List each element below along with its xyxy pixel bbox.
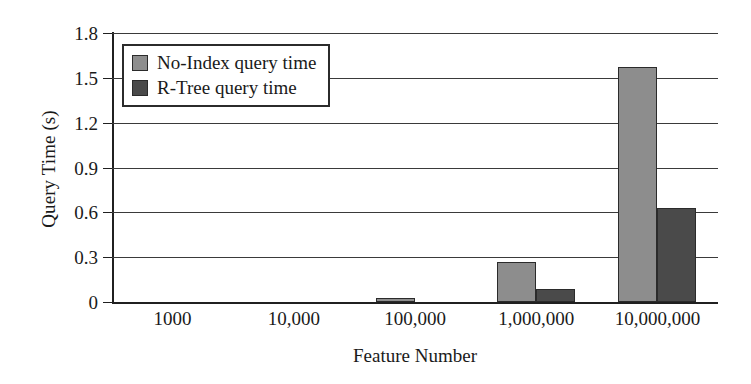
y-tick-label: 0.6 bbox=[28, 203, 98, 222]
legend-item[interactable]: R-Tree query time bbox=[132, 75, 316, 100]
x-axis-ticks: 100010,000100,0001,000,00010,000,000 bbox=[112, 308, 718, 336]
legend-label: R-Tree query time bbox=[157, 78, 297, 97]
y-tick-mark bbox=[103, 123, 112, 124]
y-tick-mark bbox=[103, 257, 112, 258]
x-tick-label: 1000 bbox=[154, 308, 192, 330]
legend-item[interactable]: No-Index query time bbox=[132, 50, 316, 75]
bar-group bbox=[354, 33, 475, 302]
y-tick-label: 1.5 bbox=[28, 69, 98, 88]
x-tick-label: 100,000 bbox=[384, 308, 446, 330]
y-tick-label: 1.8 bbox=[28, 24, 98, 43]
y-tick-label: 0.9 bbox=[28, 159, 98, 178]
y-tick-label: 0.3 bbox=[28, 248, 98, 267]
bar-group bbox=[597, 33, 718, 302]
y-tick-label: 1.2 bbox=[28, 114, 98, 133]
legend-swatch-icon bbox=[132, 55, 148, 71]
bar[interactable] bbox=[497, 262, 536, 302]
y-tick-mark bbox=[103, 33, 112, 34]
bar[interactable] bbox=[618, 67, 657, 302]
y-tick-label: 0 bbox=[28, 293, 98, 312]
bar[interactable] bbox=[376, 298, 415, 302]
y-tick-mark bbox=[103, 302, 112, 303]
y-tick-mark bbox=[103, 212, 112, 213]
y-tick-mark bbox=[103, 168, 112, 169]
legend-swatch-icon bbox=[132, 80, 148, 96]
gridline bbox=[112, 302, 718, 304]
chart-legend: No-Index query timeR-Tree query time bbox=[122, 44, 330, 107]
bar-group bbox=[476, 33, 597, 302]
x-tick-label: 10,000 bbox=[268, 308, 320, 330]
bar[interactable] bbox=[657, 208, 696, 302]
y-tick-mark bbox=[103, 78, 112, 79]
legend-label: No-Index query time bbox=[157, 53, 316, 72]
bar-chart-figure: Query Time (s) 00.30.60.91.21.51.8 10001… bbox=[0, 0, 751, 384]
x-tick-label: 10,000,000 bbox=[615, 308, 701, 330]
x-tick-label: 1,000,000 bbox=[498, 308, 574, 330]
x-axis-title: Feature Number bbox=[112, 345, 718, 367]
bar[interactable] bbox=[536, 289, 575, 302]
